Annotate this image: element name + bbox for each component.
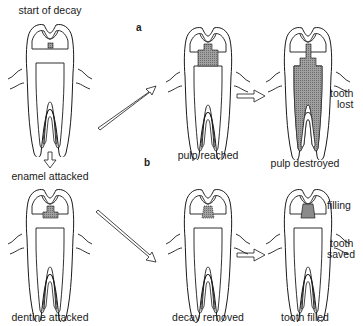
annotation-filling: filling <box>327 200 351 211</box>
stage-label-pulp-destroyed: pulp destroyed <box>271 158 340 169</box>
stage-label-dentine-attacked: dentine attacked <box>11 312 88 323</box>
tooth-pulp-reached <box>164 20 252 160</box>
stage-label-pulp-reached: pulp reached <box>178 150 239 161</box>
section-label-a: a <box>136 23 142 33</box>
stage-label-enamel-attacked: enamel attacked <box>11 171 88 182</box>
filling-region <box>301 204 315 218</box>
tooth-decay-removed <box>164 182 252 322</box>
tooth-enamel-attacked <box>6 182 94 322</box>
arrow-up-right-icon <box>98 86 156 130</box>
stage-label-decay-removed: decay removed <box>172 312 244 323</box>
outcome-lost-line2: lost <box>330 99 353 110</box>
stage-label-tooth-filled: tooth filled <box>281 312 329 323</box>
section-label-b: b <box>144 158 150 168</box>
arrow-down-icon <box>44 152 56 168</box>
outcome-tooth-lost: tooth lost <box>330 88 353 110</box>
outcome-tooth-saved: tooth saved <box>327 238 355 260</box>
outcome-saved-line2: saved <box>327 249 355 260</box>
arrow-down-right-icon <box>96 210 156 262</box>
cavity-region <box>202 206 214 218</box>
